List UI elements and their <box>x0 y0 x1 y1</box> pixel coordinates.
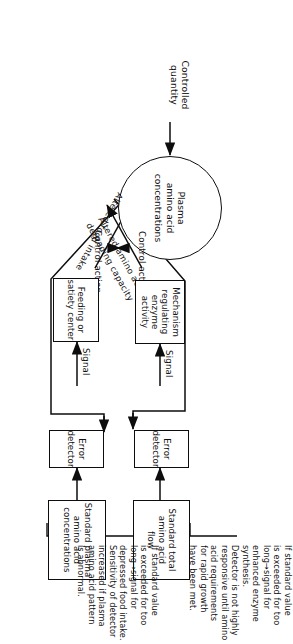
box-error-detector-enzyme[interactable]: Error detector <box>134 430 189 468</box>
box-error-detector-feeding[interactable]: Error detector <box>49 430 104 468</box>
label-signal-feeding: Signal <box>81 348 91 376</box>
figure-frame: Plasma amino acid concentrations Control… <box>0 0 237 595</box>
connector-lines <box>0 0 237 595</box>
bracket-enzyme-note <box>190 523 237 536</box>
diagram-canvas: Plasma amino acid concentrations Control… <box>0 0 237 595</box>
box-feeding-or-satiety-center[interactable]: Feeding or satiety center <box>53 278 99 342</box>
note-feeding-loop: If standard value is exceeded for too lo… <box>76 545 160 644</box>
box-mechanism-regulating-enzyme-activity[interactable]: Mechanism regulating enzyme activity <box>135 280 185 344</box>
plant-circle-plasma-amino-acid[interactable]: Plasma amino acid concentrations <box>118 156 222 260</box>
label-signal-enzyme: Signal <box>164 350 174 378</box>
label-controlled-quantity: Controlled quantity <box>169 46 191 124</box>
note-enzyme-loop: If standard value is exceeded for too lo… <box>188 545 293 644</box>
